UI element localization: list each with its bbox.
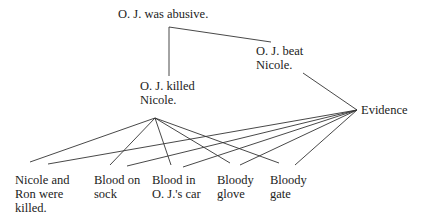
node-label-line2: gate [270, 187, 307, 201]
edge-beat-to-evidence [303, 73, 357, 110]
node-oj-was-abusive: O. J. was abusive. [118, 7, 208, 21]
node-label-line3: killed. [15, 201, 70, 215]
node-bloody-glove: Bloody glove [217, 173, 254, 201]
node-label: Evidence [361, 103, 408, 117]
node-label-line1: Nicole and [15, 173, 70, 187]
node-oj-beat-nicole: O. J. beat Nicole. [256, 44, 303, 72]
node-label-line1: O. J. beat [256, 44, 303, 58]
node-blood-on-sock: Blood on sock [94, 173, 140, 201]
node-label-line2: glove [217, 187, 254, 201]
edge-evidence-to-e4 [240, 110, 357, 165]
edge-killed-to-e2 [110, 118, 155, 165]
edge-killed-to-e1 [30, 118, 155, 162]
edge-root-to-beat [169, 27, 271, 42]
edge-evidence-to-e3 [183, 110, 357, 167]
node-blood-in-ojs-car: Blood in O. J.'s car [152, 173, 201, 201]
node-label-line1: Bloody [270, 173, 307, 187]
node-bloody-gate: Bloody gate [270, 173, 307, 201]
node-nicole-and-ron-were-killed: Nicole and Ron were killed. [15, 173, 70, 215]
edge-killed-to-e3 [155, 118, 171, 165]
argument-diagram: O. J. was abusive. O. J. killed Nicole. … [0, 0, 421, 217]
node-label: O. J. was abusive. [118, 7, 208, 21]
edge-evidence-to-e5 [295, 110, 357, 165]
node-oj-killed-nicole: O. J. killed Nicole. [140, 79, 195, 107]
node-evidence: Evidence [361, 103, 408, 117]
node-label-line2: sock [94, 187, 140, 201]
node-label-line2: Nicole. [140, 93, 195, 107]
node-label-line1: Blood on [94, 173, 140, 187]
node-label-line2: O. J.'s car [152, 187, 201, 201]
edge-evidence-to-e1 [48, 110, 357, 164]
node-label-line1: Bloody [217, 173, 254, 187]
node-label-line2: Nicole. [256, 58, 303, 72]
node-label-line1: Blood in [152, 173, 201, 187]
node-label-line2: Ron were [15, 187, 70, 201]
node-label-line1: O. J. killed [140, 79, 195, 93]
